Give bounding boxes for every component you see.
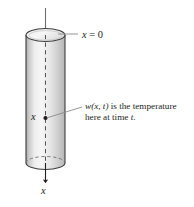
- label-x-midpoint: x: [31, 111, 36, 123]
- annotation-line-2-end: .: [133, 112, 135, 122]
- annotation-temperature: w(x, t) is the temperature here at time …: [85, 101, 177, 123]
- annotation-line-2: here at time t.: [85, 112, 177, 123]
- heat-equation-figure: x = 0 x x w(x, t) is the temperature her…: [0, 0, 194, 207]
- annotation-w-args: (x, t): [91, 101, 108, 111]
- point-marker: [43, 116, 47, 120]
- annotation-line-2-text: here at time: [85, 112, 131, 122]
- label-x-equals-zero-rest: = 0: [87, 29, 103, 40]
- annotation-line-1-text: is the temperature: [108, 101, 176, 111]
- annotation-line-1: w(x, t) is the temperature: [85, 101, 177, 112]
- label-x-equals-zero: x = 0: [82, 29, 103, 41]
- label-x-axis-bottom: x: [41, 185, 46, 197]
